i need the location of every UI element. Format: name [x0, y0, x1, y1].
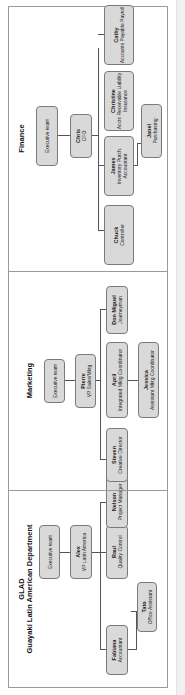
- connector: [65, 380, 75, 381]
- node-role: Accts Receivable Liability Insurance: [116, 72, 128, 130]
- node-role: Journeyman: [117, 296, 123, 324]
- node-role: CFO: [81, 131, 87, 142]
- connector: [100, 459, 106, 460]
- connector: [128, 380, 138, 381]
- connector: [100, 310, 101, 460]
- node-role: VP Sales/Mktg: [86, 365, 92, 398]
- org-chart-frame: GLAD Guayakí Latin American Department E…: [8, 6, 168, 688]
- page-edge-band: [176, 0, 185, 695]
- connector: [98, 230, 104, 231]
- node-role: Accounts Payable Payroll: [119, 7, 125, 64]
- connector: [92, 552, 100, 553]
- node-janel[interactable]: Janel Purchasing: [141, 104, 162, 158]
- node-role: Controller: [119, 224, 125, 246]
- connector: [60, 552, 70, 553]
- connector: [100, 502, 106, 503]
- node-role: Creative Director: [117, 436, 123, 474]
- panel-glad: GLAD Guayakí Latin American Department E…: [9, 491, 167, 687]
- connector: [98, 34, 104, 35]
- node-steven[interactable]: Steven Creative Director: [106, 428, 128, 482]
- connector: [137, 144, 138, 166]
- org-chart: GLAD Guayakí Latin American Department E…: [8, 6, 168, 688]
- node-role: Inventory Purch. Accountant: [116, 137, 128, 195]
- node-label: Executive team: [52, 364, 58, 398]
- panel-title: Marketing: [26, 271, 34, 490]
- panel-subtitle: Guayakí Latin American Department: [26, 491, 34, 687]
- node-don-miguel[interactable]: Don Miguel Journeyman: [106, 286, 128, 334]
- connector: [128, 649, 136, 650]
- node-role: Assistant Mktg Coordinator: [149, 350, 155, 410]
- connector: [100, 503, 101, 650]
- panel-title: Finance: [18, 6, 26, 271]
- node-tato[interactable]: Tato Office Assistant: [137, 582, 157, 632]
- node-role: VP Latin America: [81, 533, 87, 571]
- connector: [100, 309, 106, 310]
- panel-marketing: Marketing Executive team Pierre VP Sales…: [9, 271, 167, 491]
- node-executive-team[interactable]: Executive team: [39, 525, 60, 579]
- node-role: Quality Control: [117, 535, 123, 568]
- connector: [58, 135, 70, 136]
- node-cathy[interactable]: Cathy Accounts Payable Payroll: [104, 5, 134, 65]
- node-raul[interactable]: Raul Quality Control: [106, 525, 128, 579]
- node-chris[interactable]: Chris CFO: [70, 114, 92, 158]
- connector: [137, 143, 141, 144]
- node-pierre[interactable]: Pierre VP Sales/Mktg: [75, 354, 96, 408]
- node-alex[interactable]: Alex VP Latin America: [70, 525, 92, 579]
- node-role: Integrated Mktg Coordinator: [117, 349, 123, 411]
- connector: [98, 165, 104, 166]
- connector: [100, 552, 106, 553]
- node-april[interactable]: April Integrated Mktg Coordinator: [106, 342, 128, 418]
- node-james[interactable]: James Inventory Purch. Accountant: [104, 136, 134, 196]
- connector: [98, 48, 99, 231]
- node-executive-team[interactable]: Executive team: [36, 106, 58, 166]
- panel-finance: Finance Executive team Chris CFO Chuck C…: [9, 6, 167, 272]
- node-executive-team[interactable]: Executive team: [44, 359, 65, 403]
- connector: [100, 649, 106, 650]
- node-jessica[interactable]: Jessica Assistant Mktg Coordinator: [138, 342, 159, 418]
- node-label: Executive team: [44, 119, 50, 153]
- node-christine[interactable]: Christine Accts Receivable Liability Ins…: [104, 71, 134, 131]
- node-label: Executive team: [47, 535, 53, 569]
- node-fabiana[interactable]: Fabiana Accountant: [106, 625, 128, 675]
- node-chuck[interactable]: Chuck Controller: [104, 205, 134, 265]
- node-role: Office Assistant: [147, 590, 153, 624]
- node-role: Purchasing: [152, 119, 158, 144]
- node-role: Accountant: [117, 637, 123, 662]
